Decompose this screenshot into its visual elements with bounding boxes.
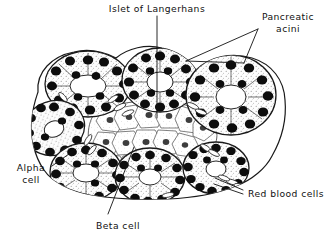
label-pancreatic-acini-line2: acini [276, 23, 300, 34]
label-beta-cell: Beta cell [96, 220, 140, 231]
label-pancreatic-acini-line1: Pancreatic [262, 11, 314, 22]
acinus-bottom-mid [115, 148, 185, 205]
pancreas-tissue-section [16, 46, 286, 205]
figure-canvas: Islet of Langerhans Pancreatic acini Alp… [0, 0, 326, 242]
label-red-blood-cells: Red blood cells [248, 188, 324, 199]
label-alpha-cell-line2: cell [22, 174, 40, 185]
acinus-top-right [186, 55, 276, 135]
label-alpha-cell-line1: Alpha [17, 162, 45, 173]
label-islet-of-langerhans: Islet of Langerhans [109, 3, 205, 14]
pancreas-histology-drawing: Islet of Langerhans Pancreatic acini Alp… [0, 0, 326, 242]
